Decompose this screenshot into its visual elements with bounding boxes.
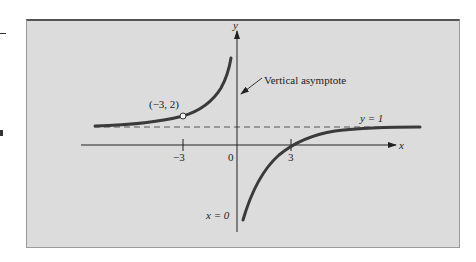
curve-left-branch [95, 58, 231, 126]
x-axis-label: x [398, 139, 404, 151]
vertical-asymptote-label: Vertical asymptote [264, 74, 346, 86]
y-axis-label: y [232, 19, 238, 31]
origin-label: 0 [228, 151, 234, 163]
point-neg3-2 [180, 113, 186, 119]
x-tick-label-neg3: −3 [173, 151, 185, 163]
vertical-asymptote-pointer [241, 78, 262, 94]
vertical-asymptote-equation: x = 0 [205, 209, 230, 221]
horizontal-asymptote-label: y = 1 [359, 112, 383, 124]
function-graph: y x 0 −3 3 (−3, 2) Vertical asymptote y … [0, 0, 476, 262]
point-label: (−3, 2) [149, 98, 179, 111]
curve-right-branch [243, 127, 420, 220]
x-tick-label-3: 3 [288, 151, 294, 163]
